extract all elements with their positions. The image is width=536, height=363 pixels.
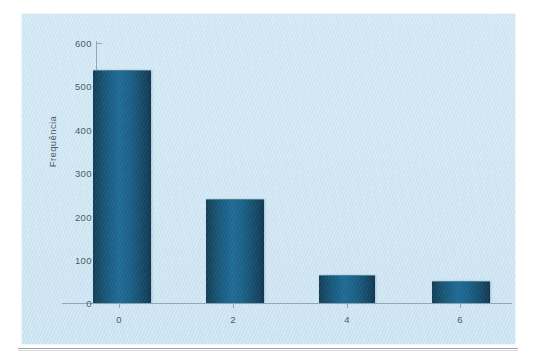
x-tick-label-2: 2 [213, 314, 253, 325]
y-tick-label-300: 300 [56, 168, 92, 179]
y-tick-600 [97, 43, 102, 44]
x-tick-2 [233, 303, 234, 308]
y-tick-label-0: 0 [56, 298, 92, 309]
y-tick-label-500: 500 [56, 81, 92, 92]
y-tick-0 [97, 303, 102, 304]
chart-panel: Frequência 0 100 200 300 400 500 600 [22, 14, 515, 344]
bar-6 [432, 281, 490, 303]
y-tick-label-100: 100 [56, 255, 92, 266]
y-tick-label-600: 600 [56, 38, 92, 49]
bar-0 [93, 70, 151, 303]
y-tick-label-400: 400 [56, 125, 92, 136]
x-tick-4 [347, 303, 348, 308]
page-rule-shadow [18, 350, 518, 351]
plot-area: Frequência 0 100 200 300 400 500 600 [22, 14, 515, 344]
bar-2 [206, 199, 264, 303]
figure: Frequência 0 100 200 300 400 500 600 [0, 0, 536, 363]
x-tick-6 [460, 303, 461, 308]
bar-4 [319, 275, 375, 303]
x-tick-label-6: 6 [440, 314, 480, 325]
x-tick-label-4: 4 [327, 314, 367, 325]
page-rule [18, 348, 518, 349]
x-tick-0 [119, 303, 120, 308]
y-tick-label-200: 200 [56, 212, 92, 223]
x-axis-line [62, 303, 512, 304]
x-tick-label-0: 0 [99, 314, 139, 325]
